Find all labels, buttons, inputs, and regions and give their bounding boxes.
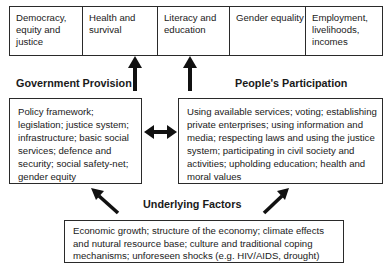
arrow-up-health-icon [128, 56, 142, 91]
arrows-layer [0, 0, 390, 271]
arrow-diagonal-people-icon [264, 188, 289, 213]
arrow-diagonal-government-icon [91, 188, 118, 213]
arrow-double-horizontal-icon [144, 125, 177, 139]
arrow-up-literacy-icon [183, 56, 197, 91]
